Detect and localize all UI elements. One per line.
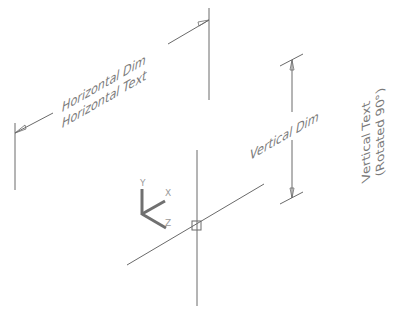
ucs-x-label: X (165, 188, 171, 198)
vertical-text-line2: (Rotated 90°) (374, 84, 387, 180)
ucs-z-label: Z (165, 218, 171, 228)
vertical-dim-label: Vertical Dim (250, 108, 319, 163)
ucs-y-label: Y (139, 178, 146, 188)
isometric-axis-line (127, 184, 264, 265)
horizontal-dim-line-left (15, 113, 53, 133)
drawing-canvas[interactable]: Horizontal Dim Horizontal Text Vertical … (0, 0, 394, 319)
isometric-drawing: Horizontal Dim Horizontal Text Vertical … (0, 0, 394, 319)
vertical-text-line1: Vertical Text (360, 98, 373, 186)
ucs-icon: Y X Z (139, 178, 171, 228)
arrowhead-left-icon (15, 125, 26, 133)
